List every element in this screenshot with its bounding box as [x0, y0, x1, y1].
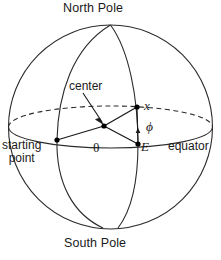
label-equator: equator	[168, 140, 209, 153]
label-starting-point-line1: starting	[2, 138, 41, 152]
label-south-pole: South Pole	[64, 237, 126, 250]
center-leader-arrowhead	[96, 118, 104, 125]
label-starting-point: startingpoint	[2, 139, 41, 164]
label-angle-phi: ϕ	[146, 120, 153, 134]
spherical-coordinates-diagram: North Pole South Pole center x ϕ E θ equ…	[0, 0, 221, 260]
label-north-pole: North Pole	[63, 2, 123, 15]
segment-E-to-x	[137, 107, 138, 144]
phi-arrow-tick	[136, 128, 141, 133]
dot-point-E	[135, 141, 140, 146]
sphere-drawing	[0, 0, 221, 260]
radius-center-to-x	[104, 107, 137, 126]
meridian-through-E	[111, 25, 139, 228]
dot-starting-point	[54, 137, 59, 142]
dot-point-x	[134, 104, 139, 109]
sphere-outline	[9, 25, 213, 229]
dot-center	[101, 123, 106, 128]
radius-center-to-starting-point	[57, 126, 104, 140]
center-leader-line	[83, 93, 102, 122]
label-point-E: E	[141, 140, 149, 154]
label-starting-point-line2: point	[2, 152, 41, 165]
label-angle-theta: θ	[93, 141, 99, 155]
label-center: center	[69, 80, 102, 93]
radius-center-to-E	[104, 126, 138, 144]
equator-back-dashed	[9, 106, 213, 127]
label-point-x: x	[144, 99, 150, 113]
